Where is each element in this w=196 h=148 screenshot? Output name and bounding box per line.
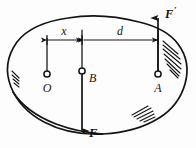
force-label-prime-mark: ′ <box>174 5 177 15</box>
hatch-left <box>12 71 19 87</box>
point-a: A <box>153 71 162 95</box>
force-label-f-prime: F <box>164 7 174 21</box>
point-o: O <box>43 71 52 95</box>
dimension-x: x <box>47 24 82 45</box>
dimension-d: d <box>84 24 158 45</box>
hatch-bottom-right <box>132 106 155 122</box>
dimension-label-x: x <box>60 24 67 38</box>
point-label-o: O <box>43 81 52 95</box>
dimension-label-d: d <box>117 24 124 38</box>
figure-root: x d F ′ F O B <box>0 0 196 148</box>
force-label-f: F <box>88 126 98 140</box>
figure-canvas: x d F ′ F O B <box>0 0 196 148</box>
point-label-a: A <box>153 81 162 95</box>
hatch-right <box>163 41 181 78</box>
point-label-b: B <box>89 71 97 85</box>
